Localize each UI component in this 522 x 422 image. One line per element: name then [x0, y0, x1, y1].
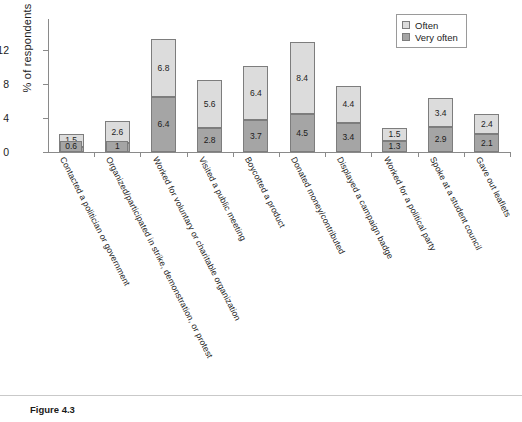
bar-value-very-often: 2.9 [435, 135, 447, 144]
bar-value-often: 6.8 [158, 64, 170, 73]
bar-value-often: 5.6 [204, 100, 216, 109]
legend-item-often: Often [402, 19, 458, 31]
bar-value-very-often: 2.8 [204, 136, 216, 145]
y-axis-tick-label: 4 [0, 112, 9, 124]
bar-segment-very-often[interactable]: 2.9 [428, 127, 453, 152]
bar-segment-often[interactable]: 2.4 [474, 114, 499, 134]
bar-segment-often[interactable]: 6.8 [151, 39, 176, 97]
bar-segment-often[interactable]: 5.6 [197, 80, 222, 128]
legend-item-very-often: Very often [402, 31, 458, 43]
bar-segment-very-often[interactable]: 2.1 [474, 134, 499, 152]
y-axis-title: % of respondents [21, 0, 33, 123]
chart-legend: Often Very often [396, 14, 467, 48]
bar-value-often: 3.4 [435, 109, 447, 118]
bar-value-very-often: 3.4 [342, 133, 354, 142]
x-axis-category-label: Donated money/contributed [289, 155, 347, 256]
x-axis-tick [510, 152, 511, 157]
legend-label-very-often: Very often [415, 32, 458, 43]
bar-segment-often[interactable]: 6.4 [243, 66, 268, 121]
legend-swatch-often-icon [402, 21, 410, 29]
bar-segment-very-often[interactable]: 1.3 [382, 141, 407, 152]
x-axis-category-label: Visited a public meeting [197, 155, 248, 242]
bar-segment-very-often[interactable]: 2.8 [197, 128, 222, 152]
x-axis-category-label: Worked for voluntary or charitable organ… [151, 155, 243, 322]
x-axis-category-label: Organized/participated in strike, demons… [104, 155, 215, 360]
bar-value-often: 8.4 [296, 74, 308, 83]
bar-stack[interactable]: 4.58.4 [290, 42, 315, 152]
legend-swatch-very-often-icon [402, 33, 410, 41]
figure-root: % of respondents 04812 1.50.62.616.46.82… [0, 0, 522, 422]
bar-segment-often[interactable]: 4.4 [336, 86, 361, 124]
bar-value-very-often: 1 [106, 141, 128, 152]
x-axis-category-label: Displayed a campaign badge [335, 155, 395, 261]
bar-segment-often[interactable]: 3.4 [428, 98, 453, 127]
bar-value-often: 2.6 [111, 128, 123, 137]
bar-value-very-often: 3.7 [250, 132, 262, 141]
bar-value-very-often: 4.5 [296, 129, 308, 138]
bar-segment-very-often[interactable]: 3.4 [336, 123, 361, 152]
x-axis-tick-labels: Contacted a politician or governmentOrga… [48, 155, 510, 355]
bar-value-very-often: 6.4 [158, 120, 170, 129]
bar-stack[interactable]: 3.76.4 [243, 66, 268, 152]
bar-value-often: 1.5 [389, 130, 401, 139]
y-axis-tick-label: 12 [0, 44, 9, 56]
bar-segment-often[interactable]: 8.4 [290, 42, 315, 114]
bar-stack[interactable]: 2.85.6 [197, 80, 222, 152]
y-axis-tick-label: 0 [0, 146, 9, 158]
x-axis-category-label: Gave out leaflets [474, 155, 513, 219]
legend-label-often: Often [415, 20, 438, 31]
x-axis-category-label: Spoke at a student council [428, 155, 484, 252]
bar-value-very-often: 0.6 [60, 141, 82, 152]
bar-stack[interactable]: 1.31.5 [382, 128, 407, 152]
bar-segment-very-often[interactable]: 6.4 [151, 97, 176, 152]
bar-value-often: 4.4 [342, 100, 354, 109]
bar-value-often: 2.4 [481, 120, 493, 129]
bar-segment-very-often[interactable]: 3.7 [243, 120, 268, 152]
bar-stack[interactable]: 2.93.4 [428, 98, 453, 152]
bar-value-very-often: 2.1 [481, 139, 493, 148]
bar-stack[interactable]: 6.46.8 [151, 39, 176, 152]
bar-value-often: 6.4 [250, 89, 262, 98]
caption-divider [0, 395, 522, 396]
figure-caption: Figure 4.3 [30, 404, 75, 415]
bar-stack[interactable]: 2.12.4 [474, 114, 499, 152]
bar-stack[interactable]: 3.44.4 [336, 86, 361, 153]
bar-value-very-often: 1.3 [389, 142, 401, 151]
y-axis-tick [43, 152, 48, 153]
bar-segment-often[interactable]: 1.5 [382, 128, 407, 141]
x-axis-category-label: Boycotted a product [243, 155, 287, 229]
x-axis-category-label: Worked for a political party [382, 155, 438, 253]
bar-segment-very-often[interactable]: 4.5 [290, 114, 315, 152]
y-axis-tick-label: 8 [0, 78, 9, 90]
